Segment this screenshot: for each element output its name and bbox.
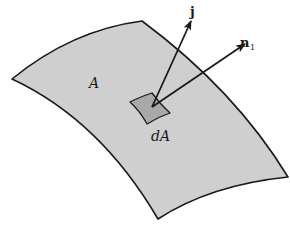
surface-label: A — [87, 75, 99, 91]
vector-n-subscript: 1 — [250, 43, 255, 52]
vector-j-label: j — [189, 4, 195, 19]
surface-diagram: A dA j n 1 — [0, 0, 290, 233]
element-label: dA — [151, 128, 170, 144]
vector-n-label: n — [240, 35, 250, 50]
